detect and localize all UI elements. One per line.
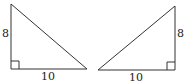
right-horizontal-label: 10 [129,71,143,82]
left-horizontal-label: 10 [41,70,55,82]
left-vertical-label: 8 [2,27,9,40]
triangles-diagram: 8 10 8 10 [0,0,184,82]
right-triangle-shape [98,6,175,70]
right-angle-marker-icon [167,62,175,70]
right-angle-marker-icon [11,61,19,69]
left-triangle-shape [11,4,87,69]
right-triangle: 8 10 [98,6,184,82]
right-vertical-label: 8 [177,27,184,40]
left-triangle: 8 10 [2,4,87,82]
